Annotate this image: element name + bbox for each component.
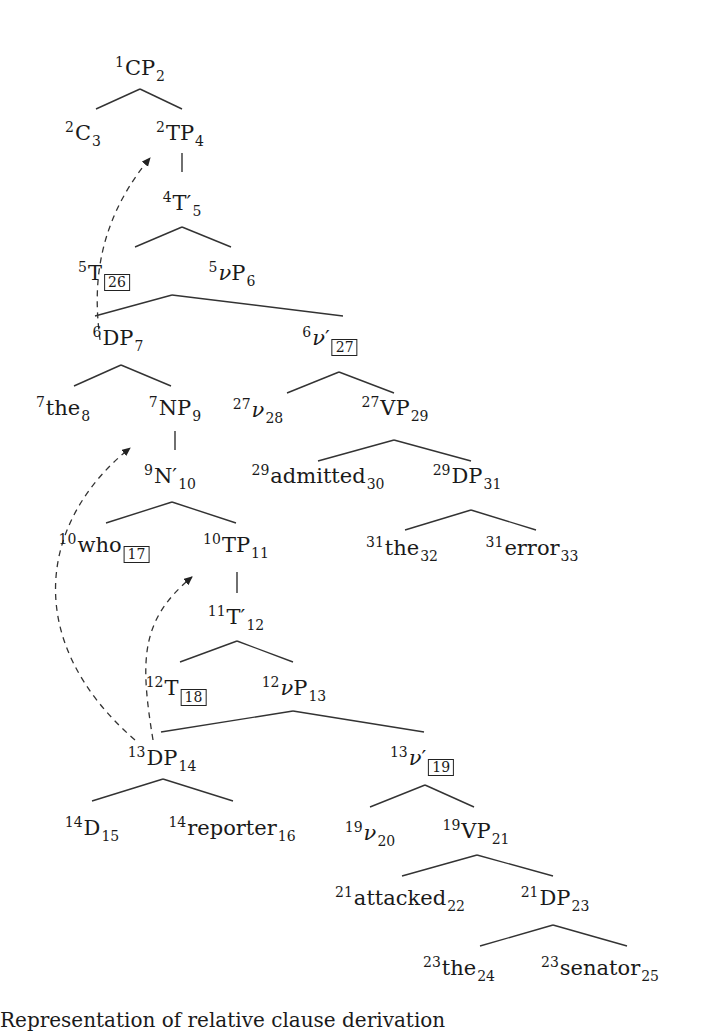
node-right-index: 29: [411, 408, 429, 424]
node-right-index: 2: [156, 68, 165, 84]
tree-branch: [74, 365, 121, 386]
tree-branch: [425, 785, 474, 807]
node-label: C: [75, 121, 91, 145]
node-left-index: 12: [262, 674, 280, 690]
node-label: TP: [222, 533, 250, 557]
node-label: T′: [227, 605, 246, 629]
node-right-index: 20: [377, 833, 395, 849]
node-left-index: 7: [36, 394, 45, 410]
node-right-index: 15: [101, 828, 119, 844]
tree-node: 31the32: [366, 535, 438, 563]
node-left-index: 14: [65, 814, 83, 830]
node-left-index: 13: [128, 744, 146, 760]
node-left-index: 19: [345, 819, 363, 835]
node-left-index: 12: [146, 674, 164, 690]
tree-node: 2C3: [65, 120, 101, 148]
node-left-index: 9: [144, 462, 153, 478]
node-right-index: 22: [447, 898, 465, 914]
tree-node: 5T26: [78, 260, 130, 291]
node-right-index: 12: [246, 617, 264, 633]
tree-branch: [96, 89, 140, 109]
tree-branch: [135, 227, 182, 247]
node-left-index: 10: [203, 531, 221, 547]
tree-node: 10who17: [59, 532, 150, 563]
node-right-index: 8: [81, 408, 90, 424]
tree-node: 27VP29: [362, 395, 429, 423]
node-left-index: 11: [208, 603, 226, 619]
tree-node: 19VP21: [443, 818, 510, 846]
node-label: reporter: [187, 816, 277, 840]
node-left-index: 23: [423, 954, 441, 970]
node-right-index: 7: [134, 338, 143, 354]
node-label: the: [46, 396, 80, 420]
tree-node: 27ν28: [233, 397, 283, 425]
node-label: who: [77, 533, 121, 557]
tree-node: 6DP7: [93, 325, 144, 353]
node-left-index: 23: [541, 954, 559, 970]
tree-node: 13ν′19: [390, 745, 454, 776]
node-label: T: [88, 261, 102, 285]
node-right-index: 25: [641, 968, 659, 984]
node-left-index: 5: [209, 259, 218, 275]
node-left-index: 10: [59, 531, 77, 547]
node-left-index: 31: [366, 534, 384, 550]
node-label: N′: [154, 464, 177, 488]
tree-node: 23the24: [423, 955, 495, 983]
node-label: CP: [125, 56, 155, 80]
node-left-index: 5: [78, 259, 87, 275]
boxed-index: 27: [332, 339, 358, 356]
boxed-index: 17: [124, 546, 150, 563]
node-left-index: 27: [362, 394, 380, 410]
tree-node: 6ν′27: [302, 325, 357, 356]
node-right-index: 32: [420, 548, 438, 564]
tree-branch: [318, 440, 394, 461]
tree-branch: [106, 502, 172, 523]
node-label: T: [164, 676, 178, 700]
tree-node: 10TP11: [203, 532, 269, 560]
tree-node: 21attacked22: [335, 885, 465, 913]
node-left-index: 6: [93, 324, 102, 340]
node-right-index: 28: [265, 410, 283, 426]
tree-branch: [163, 779, 233, 801]
node-right-index: 5: [192, 203, 201, 219]
node-label: the: [385, 536, 419, 560]
tree-node: 21DP23: [521, 885, 590, 913]
node-label: DP: [452, 464, 483, 488]
tree-node: 29DP31: [433, 463, 502, 491]
node-right-index: 3: [92, 133, 101, 149]
tree-branch: [394, 440, 471, 461]
movement-arrow: [56, 448, 135, 740]
node-left-index: 27: [233, 396, 251, 412]
node-right-index: 4: [195, 133, 204, 149]
node-right-index: 14: [178, 758, 196, 774]
tree-node: 12T18: [146, 675, 207, 706]
node-label: DP: [103, 326, 134, 350]
node-label: ν: [364, 821, 377, 845]
tree-branch: [480, 925, 553, 946]
tree-node: 14reporter16: [168, 815, 295, 843]
node-left-index: 2: [156, 119, 165, 135]
tree-node: 13DP14: [128, 745, 197, 773]
tree-branch: [293, 711, 424, 732]
node-label: the: [442, 956, 476, 980]
node-left-index: 14: [168, 814, 186, 830]
tree-node: 5νP6: [209, 260, 256, 288]
node-label: νP: [281, 676, 308, 700]
tree-node: 12νP13: [262, 675, 327, 703]
node-left-index: 2: [65, 119, 74, 135]
tree-branch: [471, 510, 536, 530]
node-label: ν′: [312, 326, 330, 350]
tree-branch: [172, 295, 343, 316]
tree-branch: [339, 372, 394, 393]
tree-node: 7the8: [36, 395, 90, 423]
node-right-index: 31: [483, 476, 501, 492]
tree-branch: [402, 855, 477, 876]
tree-branch: [553, 925, 627, 946]
boxed-index: 26: [104, 274, 130, 291]
boxed-index: 18: [181, 689, 207, 706]
node-label: VP: [380, 396, 409, 420]
tree-node: 1CP2: [115, 55, 165, 83]
tree-branch: [287, 372, 339, 393]
tree-branch: [477, 855, 553, 876]
node-left-index: 1: [115, 54, 124, 70]
